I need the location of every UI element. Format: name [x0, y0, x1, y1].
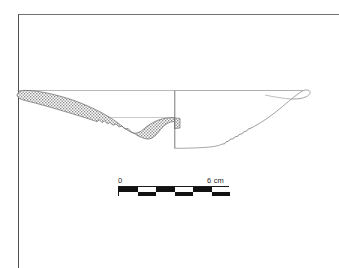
scale-bar-end-label: 6 cm	[207, 176, 224, 185]
scale-segment	[193, 192, 212, 197]
scale-segment	[212, 192, 231, 197]
vessel-upper-wall-right	[252, 90, 310, 128]
section-break-nub	[175, 118, 181, 129]
vessel-profile-drawing	[0, 0, 339, 268]
figure-root: 0 6 cm	[0, 0, 339, 268]
scale-bar: 0 6 cm	[118, 176, 236, 202]
vessel-section-hatched	[17, 90, 174, 139]
scale-segment	[175, 192, 194, 197]
scale-segment	[156, 192, 175, 197]
vessel-rim-tip-right	[265, 95, 292, 99]
scale-bar-checkerboard	[118, 186, 229, 196]
scale-bar-start-label: 0	[118, 176, 122, 185]
vessel-base-line	[175, 144, 222, 148]
scale-segment	[119, 192, 138, 197]
vessel-lower-wall-stepped	[222, 128, 252, 145]
scale-segment	[138, 192, 157, 197]
